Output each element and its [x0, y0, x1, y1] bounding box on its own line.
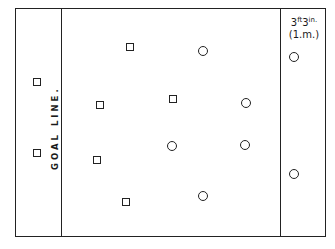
- goal-line-label: GOAL LINE.: [50, 86, 60, 170]
- goal-line: [61, 8, 62, 237]
- circle-player-marker: [240, 140, 250, 150]
- square-player-marker: [169, 95, 177, 103]
- square-player-marker: [93, 156, 101, 164]
- zone-width-label: 3ft3in. (1.m.): [284, 14, 324, 41]
- circle-player-marker: [289, 52, 299, 62]
- circle-player-marker: [198, 46, 208, 56]
- circle-player-marker: [241, 98, 251, 108]
- square-player-marker: [126, 43, 134, 51]
- circle-player-marker: [198, 191, 208, 201]
- circle-player-marker: [167, 141, 177, 151]
- square-player-marker: [96, 101, 104, 109]
- square-player-marker: [33, 149, 41, 157]
- square-player-marker: [33, 78, 41, 86]
- square-player-marker: [122, 198, 130, 206]
- circle-player-marker: [289, 169, 299, 179]
- zone-line: [280, 8, 281, 237]
